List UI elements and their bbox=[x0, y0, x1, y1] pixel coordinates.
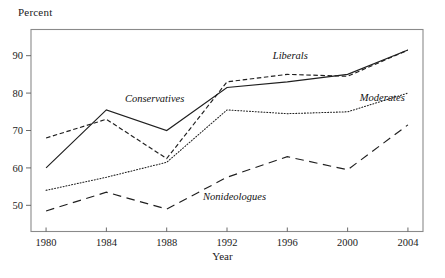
y-tick-label: 50 bbox=[13, 200, 24, 211]
series-label-conservatives: Conservatives bbox=[125, 93, 185, 104]
y-tick-label: 70 bbox=[13, 125, 24, 136]
series-label-nonideologues: Nonideologues bbox=[202, 191, 266, 202]
chart-page: Percent 5060708090 198019841988199219962… bbox=[0, 0, 445, 278]
series-line-liberals bbox=[46, 50, 408, 158]
y-tick-label: 80 bbox=[13, 88, 24, 99]
x-tick-label: 1980 bbox=[36, 237, 57, 248]
y-tick-label: 90 bbox=[13, 50, 24, 61]
x-tick-label: 2004 bbox=[397, 237, 419, 248]
x-tick-label: 1996 bbox=[277, 237, 298, 248]
y-axis-ticks: 5060708090 bbox=[13, 50, 32, 211]
x-axis-title: Year bbox=[0, 250, 445, 262]
series-line-conservatives bbox=[46, 50, 408, 168]
series-line-moderates bbox=[46, 93, 408, 190]
y-tick-label: 60 bbox=[13, 163, 24, 174]
line-chart-plot: 5060708090 1980198419881992199620002004 … bbox=[0, 0, 445, 278]
x-tick-label: 1984 bbox=[96, 237, 118, 248]
series-label-liberals: Liberals bbox=[272, 50, 308, 61]
x-tick-label: 1988 bbox=[156, 237, 177, 248]
series-annotations: ConservativesLiberalsModeratesNonideolog… bbox=[125, 50, 405, 201]
series-label-moderates: Moderates bbox=[359, 92, 405, 103]
series-lines bbox=[46, 50, 408, 211]
x-axis-ticks: 1980198419881992199620002004 bbox=[36, 228, 420, 248]
x-tick-label: 2000 bbox=[337, 237, 358, 248]
x-tick-label: 1992 bbox=[217, 237, 238, 248]
